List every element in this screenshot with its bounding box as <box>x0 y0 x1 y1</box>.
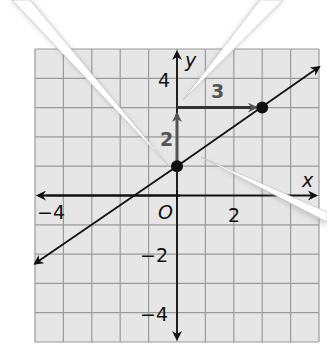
y-tick-4: 4 <box>158 69 170 91</box>
x-axis-label: x <box>301 169 314 191</box>
run-label: 3 <box>211 80 224 102</box>
y-tick-neg4: −4 <box>140 303 168 325</box>
point-3-3 <box>256 102 268 114</box>
y-tick-neg2: −2 <box>140 244 168 266</box>
x-tick-neg4: −4 <box>37 201 65 223</box>
point-0-1 <box>171 160 183 172</box>
rise-label: 2 <box>160 128 173 150</box>
coordinate-plane-graph: y x 4 3 2 −4 O 2 −2 −4 <box>0 0 327 361</box>
x-tick-2: 2 <box>228 204 240 226</box>
origin-label: O <box>158 201 173 223</box>
y-axis-label: y <box>184 49 197 71</box>
